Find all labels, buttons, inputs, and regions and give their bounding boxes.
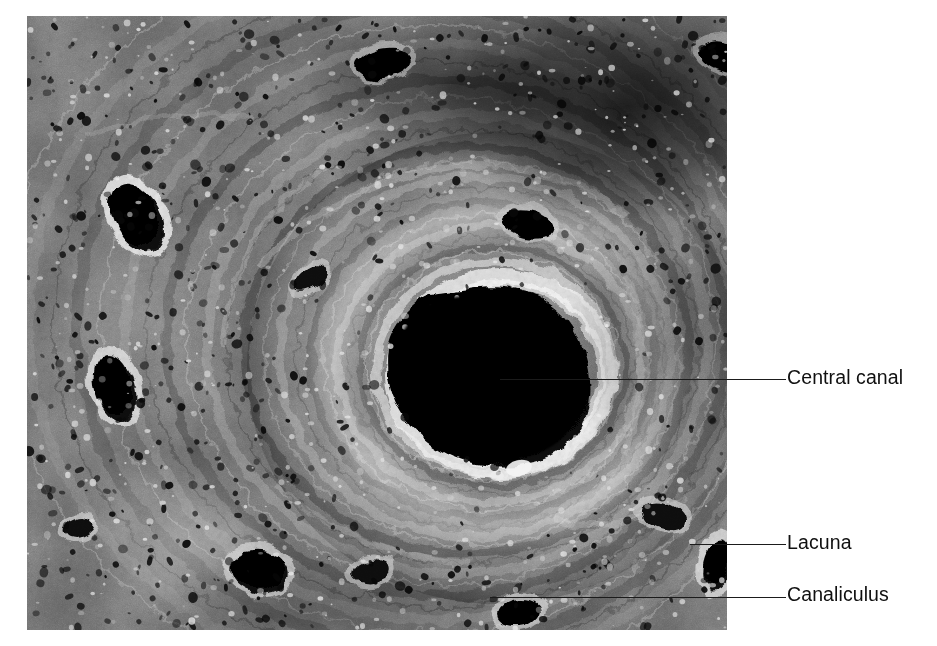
- osteon-micrograph: [27, 16, 727, 630]
- leader-line-canaliculus: [490, 597, 786, 598]
- label-central-canal: Central canal: [787, 368, 903, 388]
- leader-line-lacuna: [690, 544, 786, 545]
- leader-line-central-canal: [500, 379, 786, 380]
- surface-roughness: [27, 16, 727, 630]
- figure-root: Central canal Lacuna Canaliculus: [0, 0, 937, 646]
- micrograph-canvas: [27, 16, 727, 630]
- label-lacuna: Lacuna: [787, 533, 852, 553]
- label-canaliculus: Canaliculus: [787, 585, 889, 605]
